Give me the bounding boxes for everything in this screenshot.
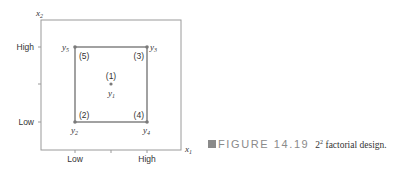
y-tick-label-high: High <box>17 42 35 52</box>
run-label-3: (3) <box>134 51 145 61</box>
run-label-5: (5) <box>79 51 90 61</box>
factorial-design-diagram: x2 x1 High Low Low High (1) (2) (3) (4) … <box>0 0 200 176</box>
figure-label: FIGURE 14.19 <box>218 138 309 150</box>
x-tick-label-high: High <box>138 154 156 164</box>
run-label-2: (2) <box>79 110 90 120</box>
response-label-y2: y2 <box>70 125 78 136</box>
response-label-y4: y4 <box>142 125 150 136</box>
point-5-marker <box>73 45 77 49</box>
figure-caption: FIGURE 14.1922 factorial design. <box>208 136 393 151</box>
point-4-marker <box>145 120 149 124</box>
y-tick-label-low: Low <box>18 117 34 127</box>
run-label-4: (4) <box>134 110 145 120</box>
response-label-y3: y3 <box>149 42 157 53</box>
run-label-1: (1) <box>106 71 117 81</box>
point-2-marker <box>73 120 77 124</box>
x-axis-label: x1 <box>184 144 192 155</box>
caption-text: 22 factorial design. <box>315 140 386 150</box>
response-label-y1: y1 <box>107 88 115 99</box>
response-label-y5: y5 <box>61 42 69 53</box>
y-axis-label: x2 <box>35 8 43 19</box>
point-3-marker <box>145 45 149 49</box>
x-tick-label-low: Low <box>67 154 83 164</box>
diagram-svg: x2 x1 High Low Low High (1) (2) (3) (4) … <box>0 0 200 176</box>
caption-square-icon <box>208 140 216 148</box>
point-1-marker <box>109 82 112 85</box>
